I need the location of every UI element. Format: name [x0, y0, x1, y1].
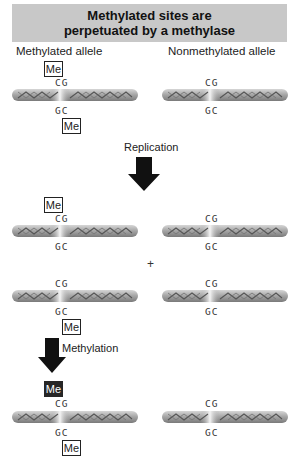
base-pair-bottom: GC [205, 241, 218, 252]
base-pair-bottom: GC [55, 105, 68, 116]
base-pair-top: CG [55, 213, 68, 224]
base-pair-bottom: GC [55, 427, 68, 438]
base-pair-bottom: GC [205, 105, 218, 116]
dna-strand-daughter-4 [162, 290, 288, 302]
title-banner: Methylated sites are perpetuated by a me… [12, 4, 287, 42]
methyl-group-bottom: Me [62, 440, 81, 456]
dna-strand-daughter-1 [12, 225, 138, 237]
base-pair-top: CG [205, 213, 218, 224]
dna-strand-unmethylated [162, 411, 288, 423]
base-pair-top: CG [55, 398, 68, 409]
methylation-label: Methylation [62, 342, 118, 354]
dna-strand-daughter-3 [162, 225, 288, 237]
base-pair-top: CG [205, 278, 218, 289]
replication-label: Replication [124, 141, 178, 153]
down-arrow-icon [128, 157, 160, 191]
base-pair-bottom: GC [205, 306, 218, 317]
base-pair-bottom: GC [55, 241, 68, 252]
base-pair-bottom: GC [205, 427, 218, 438]
title-line-1: Methylated sites are [87, 8, 211, 23]
dna-strand-daughter-2 [12, 290, 138, 302]
nonmethylated-allele-label: Nonmethylated allele [168, 45, 275, 57]
base-pair-top: CG [55, 278, 68, 289]
dna-strand-remethylated [12, 411, 138, 423]
dna-strand-nonmethylated [162, 89, 288, 101]
methyl-group-bottom: Me [62, 118, 81, 134]
dna-strand-methylated [12, 89, 138, 101]
base-pair-top: CG [205, 77, 218, 88]
plus-sign: + [147, 257, 154, 271]
methyl-group-top: Me [44, 61, 63, 77]
new-methyl-group-top: Me [44, 381, 63, 397]
base-pair-top: CG [55, 77, 68, 88]
methyl-group-bottom: Me [62, 319, 81, 335]
methylated-allele-label: Methylated allele [16, 45, 102, 57]
base-pair-bottom: GC [55, 306, 68, 317]
methyl-group-top: Me [44, 197, 63, 213]
title-line-2: perpetuated by a methylase [64, 23, 235, 38]
base-pair-top: CG [205, 398, 218, 409]
